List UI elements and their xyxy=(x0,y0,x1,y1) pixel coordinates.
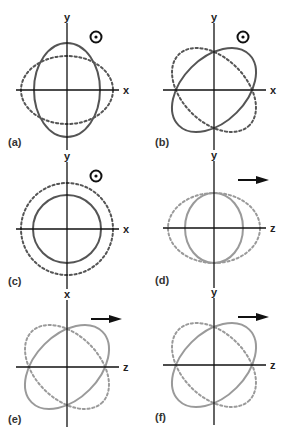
propagation-arrow-icon xyxy=(238,176,269,184)
panel-f: yz(f) xyxy=(155,286,276,425)
horizontal-axis-label: x xyxy=(270,84,277,96)
panel-a: yx(a) xyxy=(8,11,130,150)
vertical-axis-label: y xyxy=(64,150,71,162)
panel-label: (d) xyxy=(155,274,169,286)
vertical-axis-label: y xyxy=(211,11,218,23)
vertical-axis-label: x xyxy=(64,288,71,300)
out-of-page-icon xyxy=(238,32,249,43)
panel-label: (a) xyxy=(8,136,22,148)
panel-label: (f) xyxy=(155,411,166,423)
polarization-diagram: yx(a)yx(b)yx(c)yz(d)xz(e)yz(f) xyxy=(0,0,291,448)
horizontal-axis-label: z xyxy=(270,359,276,371)
panel-b: yx(b) xyxy=(155,11,277,150)
vertical-axis-label: y xyxy=(64,11,71,23)
propagation-arrow-icon xyxy=(238,313,269,321)
horizontal-axis-label: x xyxy=(123,223,130,235)
out-of-page-icon xyxy=(91,171,102,182)
panel-c: yx(c) xyxy=(8,150,130,289)
panel-label: (c) xyxy=(8,275,22,287)
propagation-arrow-icon xyxy=(91,315,122,323)
panel-d: yz(d) xyxy=(155,149,276,288)
horizontal-axis-label: x xyxy=(123,84,130,96)
panel-label: (b) xyxy=(155,136,169,148)
horizontal-axis-label: z xyxy=(123,361,129,373)
vertical-axis-label: y xyxy=(211,149,218,161)
panel-label: (e) xyxy=(8,413,22,425)
out-of-page-icon xyxy=(91,32,102,43)
vertical-axis-label: y xyxy=(211,286,218,298)
panel-e: xz(e) xyxy=(8,288,129,427)
horizontal-axis-label: z xyxy=(270,222,276,234)
